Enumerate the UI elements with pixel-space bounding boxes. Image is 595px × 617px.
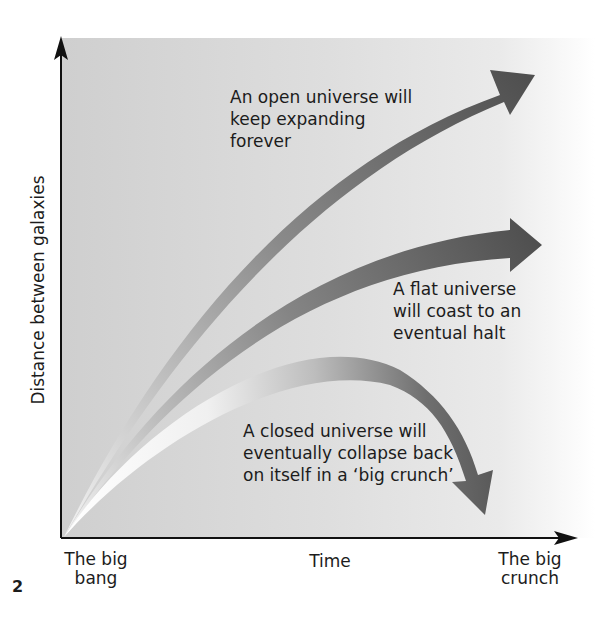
universe-fate-diagram: Distance between galaxies An open univer… <box>0 0 595 617</box>
figure-number: 2 <box>12 577 23 596</box>
closed-universe-annotation: A closed universe will eventually collap… <box>243 420 454 486</box>
big-crunch-label: The big crunch <box>490 550 570 588</box>
x-axis-label: Time <box>290 552 370 571</box>
y-axis <box>54 36 68 538</box>
y-axis-label: Distance between galaxies <box>28 175 48 404</box>
open-universe-annotation: An open universe will keep expanding for… <box>230 86 412 152</box>
big-bang-label: The big bang <box>56 550 136 588</box>
flat-universe-annotation: A flat universe will coast to an eventua… <box>393 278 521 344</box>
x-axis <box>61 531 578 545</box>
